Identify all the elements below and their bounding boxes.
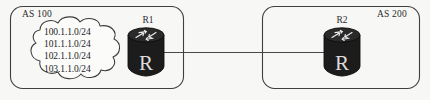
router-r2-icon: R [324, 28, 360, 76]
prefix-item: 100.1.1.0/24 [44, 26, 120, 38]
prefix-item: 101.1.1.0/24 [44, 38, 120, 50]
router-label-r2: R2 [327, 15, 357, 25]
router-r1-glyph: R [139, 51, 153, 75]
as-label-left: AS 100 [22, 9, 52, 19]
router-r1-icon: R [128, 28, 164, 76]
prefix-item: 102.1.1.0/24 [44, 50, 120, 62]
prefix-item: 103.1.1.0/24 [44, 63, 120, 75]
router-r2-glyph: R [335, 51, 349, 75]
network-diagram: R R AS 100 AS 200 R1 R2 100.1.1.0/24 [0, 0, 430, 100]
router-label-r1: R1 [133, 15, 163, 25]
prefix-list: 100.1.1.0/24 101.1.1.0/24 102.1.1.0/24 1… [44, 26, 120, 75]
as-label-right: AS 200 [377, 9, 407, 19]
